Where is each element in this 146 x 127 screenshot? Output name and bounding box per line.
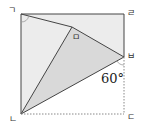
label-d: ㄷ	[127, 112, 135, 122]
label-g: ㄱ	[8, 5, 16, 15]
label-m: ㅁ	[72, 32, 80, 42]
label-n: ㄴ	[9, 114, 17, 124]
angle-label-60: 60°	[101, 71, 124, 86]
angle-arc-b	[117, 61, 124, 65]
label-b: ㅂ	[127, 51, 135, 61]
label-r: ㄹ	[127, 8, 135, 18]
folded-square-diagram: ㄱ ㄹ ㅁ ㅂ ㄴ ㄷ 60°	[0, 0, 146, 127]
